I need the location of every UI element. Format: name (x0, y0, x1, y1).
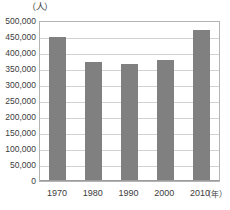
plot-area (39, 21, 220, 182)
y-axis-tick-label: 500,000 (0, 17, 36, 26)
bar (85, 62, 102, 181)
bar (157, 60, 174, 181)
y-axis-tick-label: 150,000 (0, 129, 36, 138)
x-axis-line (40, 180, 219, 181)
y-axis-tick-label: 250,000 (0, 97, 36, 106)
y-axis-tick-label: 0 (0, 177, 36, 186)
y-axis-tick-label: 400,000 (0, 49, 36, 58)
bar (49, 37, 66, 181)
y-axis-unit-label: （人） (27, 1, 53, 13)
y-axis-tick-label: 50,000 (0, 161, 36, 170)
y-axis-tick-label: 450,000 (0, 33, 36, 42)
bar (121, 64, 138, 181)
bar (193, 30, 210, 181)
y-axis-tick-label: 300,000 (0, 81, 36, 90)
bar-chart: （人） 500,000450,000400,000350,000300,0002… (0, 0, 230, 210)
x-axis-unit-label: （年） (203, 189, 227, 200)
y-axis-tick-label: 350,000 (0, 65, 36, 74)
y-axis-tick-label: 100,000 (0, 145, 36, 154)
y-axis-tick-label: 200,000 (0, 113, 36, 122)
